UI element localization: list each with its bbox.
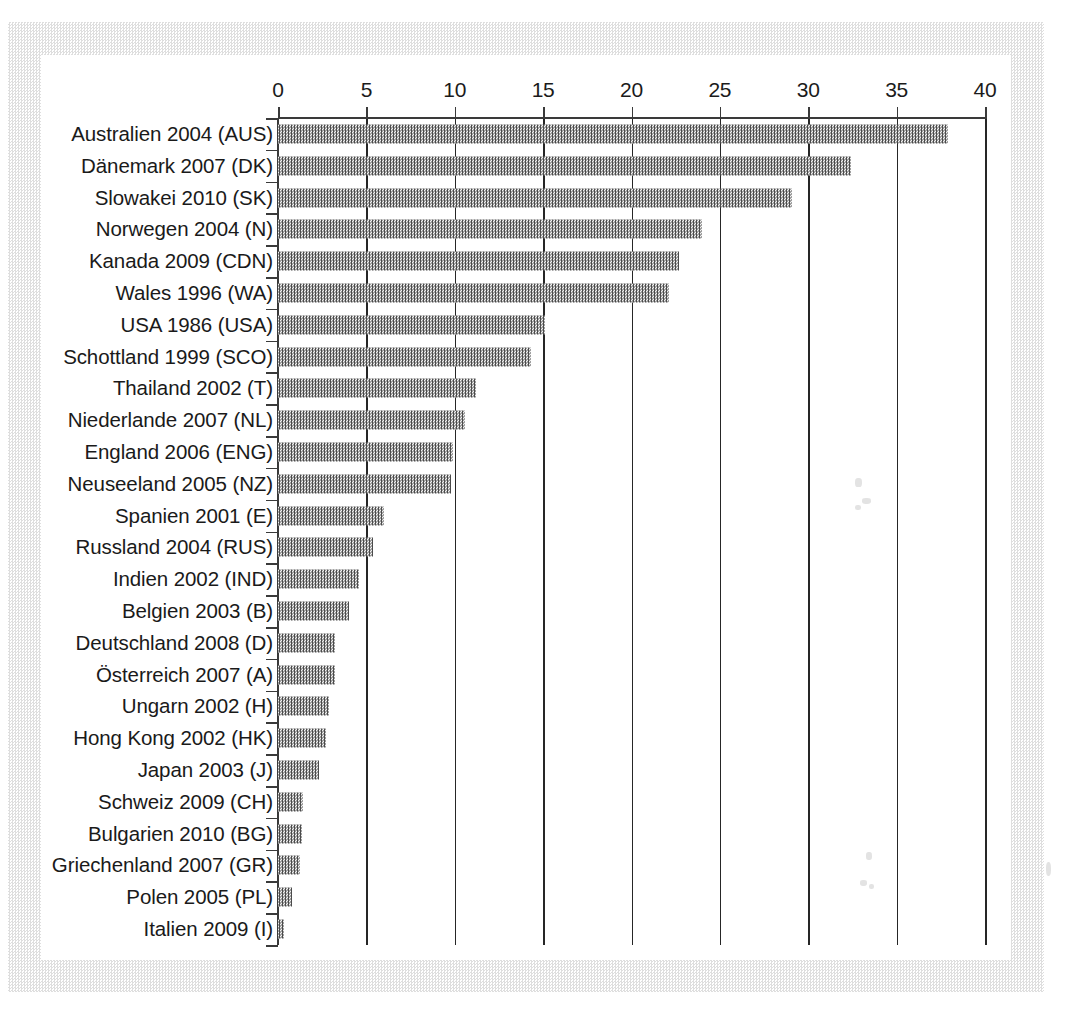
bar [278,411,465,430]
x-tick-label-30: 30 [797,78,820,102]
bar-row: Belgien 2003 (B) [0,595,1076,627]
x-axis-tick-labels: 0510152025303540 [0,78,1076,104]
bar-row: Norwegen 2004 (N) [0,213,1076,245]
x-tick-label-25: 25 [708,78,731,102]
bar-row: Japan 2003 (J) [0,754,1076,786]
x-tick-label-20: 20 [620,78,643,102]
category-label: Dänemark 2007 (DK) [81,154,273,178]
category-label: Deutschland 2008 (D) [76,631,273,655]
bar-row: Dänemark 2007 (DK) [0,150,1076,182]
bar-row: Australien 2004 (AUS) [0,118,1076,150]
bar [278,474,451,493]
category-label: Schweiz 2009 (CH) [98,790,273,814]
bar-row: Neuseeland 2005 (NZ) [0,468,1076,500]
x-tick-label-35: 35 [885,78,908,102]
category-label: England 2006 (ENG) [84,440,273,464]
scan-speck-5 [869,884,874,889]
category-label: Belgien 2003 (B) [122,599,273,623]
bar [278,697,329,716]
x-tick-label-15: 15 [532,78,555,102]
category-label: Wales 1996 (WA) [115,281,273,305]
bar-row: Indien 2002 (IND) [0,563,1076,595]
category-label: Hong Kong 2002 (HK) [73,726,273,750]
x-tick-label-10: 10 [443,78,466,102]
bar-row: Ungarn 2002 (H) [0,691,1076,723]
page-root: 0510152025303540 Australien 2004 (AUS)Dä… [0,0,1076,1016]
bar [278,156,851,175]
bar [278,347,531,366]
scan-speck-4 [860,880,867,886]
scan-speck-1 [862,498,871,504]
bar [278,633,335,652]
bar-row: USA 1986 (USA) [0,309,1076,341]
bar [278,283,669,302]
bar [278,506,384,525]
category-label: Australien 2004 (AUS) [71,122,273,146]
scan-speck-3 [866,852,872,860]
category-label: Indien 2002 (IND) [113,567,273,591]
bar-row: Italien 2009 (I) [0,913,1076,945]
bar [278,665,335,684]
bar [278,792,303,811]
category-label: Russland 2004 (RUS) [76,535,274,559]
category-label: Italien 2009 (I) [144,917,273,941]
category-label: Österreich 2007 (A) [96,663,273,687]
category-label: Schottland 1999 (SCO) [63,345,273,369]
bar [278,315,545,334]
category-label: Polen 2005 (PL) [126,885,273,909]
bar-row: Slowakei 2010 (SK) [0,182,1076,214]
bar-row: Schweiz 2009 (CH) [0,786,1076,818]
bar-row: Griechenland 2007 (GR) [0,850,1076,882]
category-label: Neuseeland 2005 (NZ) [68,472,273,496]
bar-row: Hong Kong 2002 (HK) [0,722,1076,754]
bar-row: Deutschland 2008 (D) [0,627,1076,659]
bar-row: Niederlande 2007 (NL) [0,404,1076,436]
bar [278,538,373,557]
bar-row: Bulgarien 2010 (BG) [0,818,1076,850]
category-label: Kanada 2009 (CDN) [89,249,273,273]
bar-row: Polen 2005 (PL) [0,881,1076,913]
bar [278,761,319,780]
bar [278,252,679,271]
category-label: Norwegen 2004 (N) [96,217,273,241]
category-label: Ungarn 2002 (H) [122,694,273,718]
category-label: Bulgarien 2010 (BG) [88,822,273,846]
category-label: Griechenland 2007 (GR) [52,853,273,877]
bar [278,729,326,748]
y-tick-mark-26 [266,945,278,947]
category-label: Spanien 2001 (E) [115,504,273,528]
category-label: Thailand 2002 (T) [113,376,273,400]
horizontal-bar-chart: 0510152025303540 Australien 2004 (AUS)Dä… [0,0,1076,1016]
scan-speck-2 [855,505,861,510]
bar [278,379,476,398]
bar [278,920,284,939]
x-tick-label-0: 0 [272,78,283,102]
category-label: Slowakei 2010 (SK) [95,186,273,210]
bar-row: Russland 2004 (RUS) [0,532,1076,564]
bar [278,220,702,239]
bar [278,602,349,621]
category-label: Niederlande 2007 (NL) [68,408,273,432]
scan-speck-0 [855,478,862,487]
bar-row: Spanien 2001 (E) [0,500,1076,532]
bar [278,824,302,843]
bar-row: Wales 1996 (WA) [0,277,1076,309]
x-tick-label-40: 40 [974,78,997,102]
bar-row: Österreich 2007 (A) [0,659,1076,691]
category-label: USA 1986 (USA) [121,313,273,337]
bar-row: England 2006 (ENG) [0,436,1076,468]
bar [278,570,359,589]
scan-speck-6 [1046,862,1051,876]
x-tick-label-5: 5 [361,78,372,102]
bar-row: Kanada 2009 (CDN) [0,245,1076,277]
bar-row: Schottland 1999 (SCO) [0,341,1076,373]
category-label: Japan 2003 (J) [138,758,273,782]
bar [278,888,292,907]
bar-row: Thailand 2002 (T) [0,372,1076,404]
bar [278,124,948,143]
bar [278,442,453,461]
bar [278,856,300,875]
bar [278,188,792,207]
